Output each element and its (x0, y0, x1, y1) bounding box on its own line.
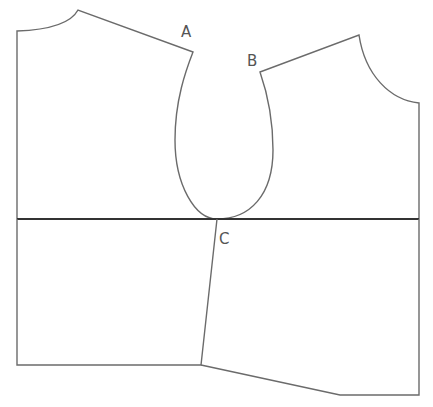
lower-left-outline (17, 219, 217, 365)
lower-right-outline (201, 219, 419, 395)
bodice-pattern-diagram: A B C (0, 0, 433, 407)
label-b: B (247, 52, 257, 70)
left-bodice-outline (17, 10, 217, 219)
label-c: C (219, 230, 229, 248)
label-a: A (181, 23, 192, 41)
